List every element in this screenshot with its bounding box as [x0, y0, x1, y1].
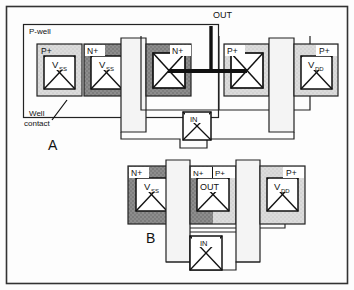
poly-gate-a-pmos	[269, 38, 294, 132]
cell-b-vss-nplus-contact-label: V	[144, 181, 151, 192]
layout-svg: P+ V SS N+ V SS	[0, 0, 354, 290]
poly-gate-b-right	[236, 160, 260, 262]
cell-a-vss-pplus-contact-sub: SS	[59, 66, 67, 72]
cell-b-vdd-pplus-contact-sub: DD	[281, 188, 290, 194]
cell-b-out-contact-label: OUT	[200, 182, 220, 192]
poly-gate-a-nmos	[121, 38, 146, 132]
gate-contact-in-b-label: IN	[200, 239, 208, 248]
cell-a-pmos-drain-doping: P+	[227, 46, 238, 56]
cell-b-out-doping-p: P+	[215, 169, 225, 178]
well-contact-label-line2: contact	[24, 119, 51, 128]
p-well-label: P-well	[29, 27, 51, 36]
gate-contact-in-a-label: IN	[190, 115, 198, 124]
cell-a-vdd-pplus-contact-label: V	[308, 59, 315, 70]
well-contact-label-line1: Well	[29, 109, 45, 118]
cell-a-vss-nplus-contact-sub: SS	[106, 66, 114, 72]
cell-a-vss-pplus-doping: P+	[41, 46, 52, 56]
cell-a-vss-pplus: P+ V SS	[37, 44, 82, 96]
out-label-a: OUT	[213, 10, 233, 20]
poly-gate-b-left	[166, 160, 190, 262]
cell-a-vss-nplus-contact-label: V	[99, 59, 106, 70]
figure-root: P+ V SS N+ V SS	[0, 0, 354, 290]
cmos-layout-figure: P+ V SS N+ V SS	[0, 0, 354, 290]
cell-a-vdd-pplus-doping: P+	[319, 46, 330, 56]
cell-a-vdd-pplus: P+ V DD	[294, 44, 338, 96]
cell-a-nmos-drain-doping: N+	[172, 46, 183, 56]
cell-b-vdd-pplus-contact-label: V	[274, 181, 281, 192]
panel-label-a: A	[48, 137, 58, 153]
cell-b-vss-nplus-contact-sub: SS	[151, 188, 159, 194]
gate-contact-in-b: IN	[190, 236, 222, 270]
panel-label-b: B	[146, 230, 155, 246]
gate-contact-in-a: IN	[183, 112, 211, 140]
cell-b-vdd-pplus: P+ V DD	[260, 166, 305, 224]
cell-b-vss-nplus-doping: N+	[131, 168, 142, 178]
cell-b-vdd-pplus-doping: P+	[286, 168, 297, 178]
cell-b-out-doping-n: N+	[193, 169, 204, 178]
cell-a-vss-nplus-doping: N+	[87, 46, 98, 56]
cell-a-vss-pplus-contact-label: V	[52, 59, 59, 70]
cell-a-vdd-pplus-contact-sub: DD	[315, 66, 324, 72]
cell-b-out-shared: N+ P+ OUT	[190, 166, 236, 224]
